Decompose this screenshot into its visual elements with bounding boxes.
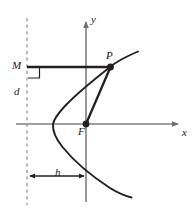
right-angle-marker-icon	[28, 68, 40, 79]
x-axis-label: x	[182, 127, 187, 138]
parabola-figure: y x P F M d h	[0, 0, 196, 212]
point-p-label: P	[106, 50, 113, 61]
figure-canvas	[0, 0, 196, 212]
distance-h-label: h	[55, 167, 61, 178]
point-f-label: F	[78, 126, 85, 137]
point-p-marker	[107, 64, 114, 71]
point-m-label: M	[12, 60, 21, 71]
distance-d-label: d	[14, 86, 20, 97]
y-axis-label: y	[91, 14, 96, 25]
